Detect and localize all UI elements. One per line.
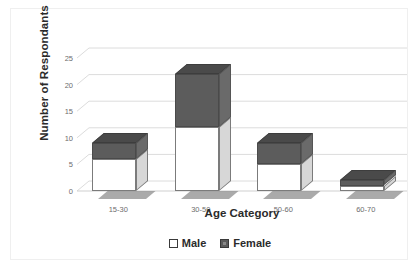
chart-frame: Number of Respondants (10, 8, 408, 260)
square-filled-icon (220, 239, 229, 248)
bar-shadow (181, 191, 239, 199)
chart-legend: Male Female (11, 237, 418, 249)
segment-front-face (175, 74, 219, 127)
y-tick-15: 15 (49, 107, 73, 116)
y-axis-title: Number of Respondants (38, 0, 50, 148)
segment-front-face (340, 186, 384, 191)
bar-shadow (98, 191, 156, 199)
segment-front-face (257, 164, 301, 191)
bar-segment-60-70-male (340, 186, 384, 191)
bar-segment-60-70-female (340, 180, 384, 185)
bar-segment-50-60-male (257, 164, 301, 191)
plot-area: 0 5 10 15 20 25 15-30 30-50 50-60 60-70 (77, 39, 407, 199)
segment-front-face (175, 127, 219, 191)
y-tick-10: 10 (49, 133, 73, 142)
bar-shadow (263, 191, 321, 199)
y-tick-0: 0 (49, 187, 73, 196)
bar-segment-15-30-male (92, 159, 136, 191)
y-tick-5: 5 (49, 160, 73, 169)
legend-item-male: Male (169, 237, 206, 249)
bar-15-30 (92, 143, 136, 191)
segment-front-face (257, 143, 301, 164)
x-axis-title: Age Category (77, 207, 407, 219)
legend-label-male: Male (182, 237, 206, 249)
bar-60-70 (340, 180, 384, 191)
bar-segment-30-50-female (175, 74, 219, 127)
y-tick-20: 20 (49, 80, 73, 89)
bar-30-50 (175, 74, 219, 191)
segment-front-face (92, 143, 136, 159)
chart-figure: Number of Respondants (0, 0, 418, 272)
legend-item-female: Female (220, 237, 271, 249)
segment-side-face (219, 64, 231, 127)
square-outline-icon (169, 239, 178, 248)
bar-segment-30-50-male (175, 127, 219, 191)
bar-group (77, 39, 407, 199)
bar-segment-50-60-female (257, 143, 301, 164)
segment-front-face (340, 180, 384, 185)
bar-50-60 (257, 143, 301, 191)
segment-front-face (92, 159, 136, 191)
y-tick-25: 25 (49, 54, 73, 63)
segment-side-face (219, 117, 231, 191)
legend-label-female: Female (233, 237, 271, 249)
bar-shadow (346, 191, 404, 199)
bar-segment-15-30-female (92, 143, 136, 159)
